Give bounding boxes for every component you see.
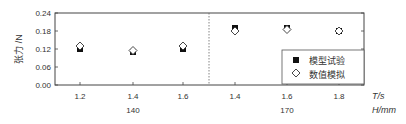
x-axis-ticks: 1.21.41.61.41.61.8140170 <box>74 82 345 115</box>
y-axis-title: 张力 /N <box>13 34 24 64</box>
x-tick-label-T: 1.4 <box>127 92 139 101</box>
y-tick-label: 0.06 <box>35 63 51 72</box>
x-axis-title-H: H/mm <box>372 105 396 115</box>
x-group-label-H: 140 <box>126 106 140 115</box>
x-tick-label-T: 1.6 <box>281 92 293 101</box>
tension-chart: 0.000.060.120.180.24 1.21.41.61.41.61.81… <box>0 0 406 124</box>
legend: 模型试验 数值模拟 <box>282 50 364 84</box>
y-tick-label: 0.00 <box>35 81 51 90</box>
x-group-label-H: 170 <box>280 106 294 115</box>
x-tick-label-T: 1.4 <box>229 92 241 101</box>
x-tick-label-T: 1.8 <box>333 92 345 101</box>
y-tick-label: 0.24 <box>35 9 51 18</box>
legend-label-simulation: 数值模拟 <box>309 69 345 80</box>
legend-label-experiment: 模型试验 <box>309 55 345 66</box>
x-axis-title-T: T/s <box>372 91 385 101</box>
y-tick-label: 0.18 <box>35 27 51 36</box>
y-tick-label: 0.12 <box>35 45 51 54</box>
filled-square-icon <box>293 57 299 63</box>
x-tick-label-T: 1.2 <box>74 92 86 101</box>
x-tick-label-T: 1.6 <box>177 92 189 101</box>
